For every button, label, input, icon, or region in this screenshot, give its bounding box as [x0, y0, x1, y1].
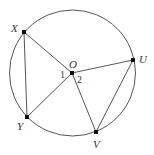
- point-y: [25, 115, 29, 119]
- point-v: [94, 130, 98, 134]
- label-o: O: [69, 58, 77, 70]
- angle-2-label: 2: [77, 74, 82, 85]
- segment-uv: [96, 60, 133, 132]
- segment-yo: [27, 73, 72, 117]
- segment-xo: [24, 32, 72, 73]
- segment-ou: [72, 60, 133, 73]
- circle-diagram: O X Y U V 1 2: [0, 0, 154, 155]
- label-y: Y: [17, 120, 25, 132]
- label-v: V: [93, 138, 101, 150]
- point-u: [131, 58, 135, 62]
- segment-xy: [24, 32, 27, 117]
- label-x: X: [10, 22, 19, 34]
- angle-1-label: 1: [60, 69, 65, 80]
- point-o: [70, 71, 74, 75]
- label-u: U: [139, 53, 148, 65]
- segment-ov: [72, 73, 96, 132]
- point-x: [22, 30, 26, 34]
